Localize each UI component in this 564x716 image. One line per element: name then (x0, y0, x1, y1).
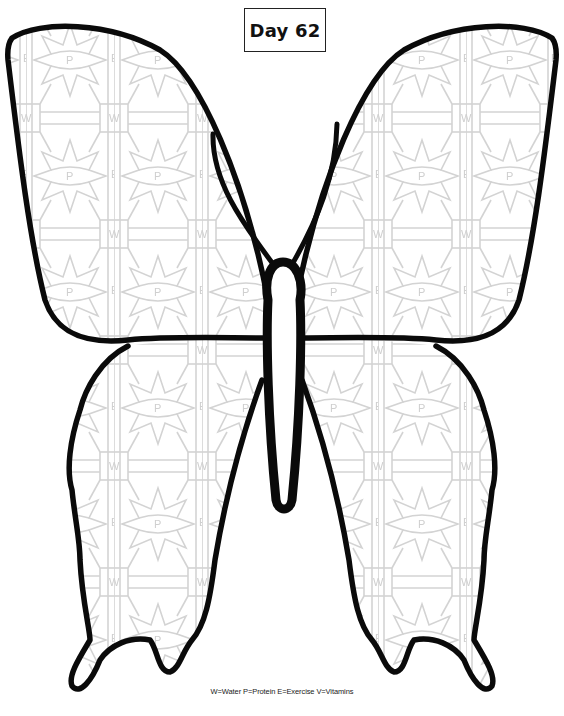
coloring-page: Day 62 (0, 0, 564, 716)
butterfly-body (267, 262, 301, 509)
butterfly-illustration: P W W W W E (0, 0, 564, 716)
legend: W=Water P=Protein E=Exercise V=Vitamins (0, 687, 564, 696)
